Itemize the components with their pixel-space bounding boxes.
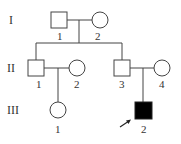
individual-II-4-female [154,60,170,76]
individual-III-2-affected-male [135,102,152,119]
label-II-4: 4 [159,78,165,90]
label-II-1: 1 [36,78,42,90]
individual-II-2-female [69,60,85,76]
individual-II-1-male [28,60,44,76]
label-II-2: 2 [74,78,80,90]
label-I-2: 2 [95,30,101,42]
proband-arrow-icon [120,120,131,128]
generation-label-III: III [7,103,19,117]
generation-label-I: I [9,13,13,27]
pedigree-chart: I II III 1 2 1 2 3 4 1 2 [0,0,181,144]
label-III-2: 2 [141,123,147,135]
generation-label-II: II [7,61,15,75]
label-I-1: 1 [57,30,63,42]
individual-III-1-female [50,102,66,118]
individual-I-1-male [51,12,67,28]
individual-II-3-male [114,60,130,76]
individual-I-2-female [92,12,108,28]
label-II-3: 3 [119,78,125,90]
label-III-1: 1 [55,123,61,135]
